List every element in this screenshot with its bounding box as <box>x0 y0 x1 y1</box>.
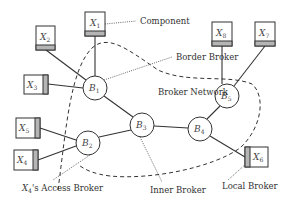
label-broker-network: Broker Network <box>158 87 229 97</box>
component-x5: X5 <box>16 118 40 138</box>
label-local-broker: Local Broker <box>222 181 279 191</box>
label-inner-broker: Inner Broker <box>150 185 207 195</box>
component-x3-shade <box>43 75 48 94</box>
broker-b2: B2 <box>76 131 100 155</box>
broker-b4: B4 <box>188 117 212 141</box>
label-access-broker: X4's Access Broker <box>21 183 104 194</box>
broker-b1: B1 <box>83 76 107 100</box>
edge-x4-b2 <box>38 146 76 160</box>
component-x8: X8 <box>212 22 232 46</box>
edge-b4-b5 <box>207 106 220 119</box>
broker-network-diagram: X1 X2 X3 X5 X4 X8 X7 X6 B1 <box>0 0 285 205</box>
component-x3: X3 <box>24 75 48 94</box>
pointer-component <box>105 21 136 24</box>
component-x7-shade <box>255 41 275 46</box>
component-x4: X4 <box>14 150 38 170</box>
pointer-access-broker <box>53 155 90 180</box>
component-x5-shade <box>35 118 40 138</box>
edge-b3-b4 <box>154 126 188 128</box>
component-x1-shade <box>85 31 105 36</box>
label-border-broker: Border Broker <box>176 52 239 62</box>
edge-x7-b5 <box>234 46 265 86</box>
component-x7: X7 <box>255 22 275 46</box>
edge-b4-x6 <box>210 136 245 157</box>
broker-network-boundary <box>58 42 260 190</box>
broker-b3: B3 <box>130 113 154 137</box>
edge-x2-b1 <box>46 50 86 80</box>
edge-x3-b1 <box>48 84 83 88</box>
component-x4-shade <box>33 150 38 170</box>
pointer-local-broker <box>228 163 247 180</box>
edge-b2-b3 <box>99 130 131 137</box>
edge-b1-b3 <box>104 96 133 117</box>
component-x2-shade <box>36 45 55 50</box>
component-x6: X6 <box>245 147 268 167</box>
edge-x5-b2 <box>40 128 76 140</box>
label-component: Component <box>140 16 190 26</box>
component-x8-shade <box>212 41 232 46</box>
component-x1: X1 <box>85 12 105 36</box>
component-x6-shade <box>245 147 250 167</box>
component-x2: X2 <box>36 26 55 50</box>
pointer-border-broker <box>104 57 172 80</box>
